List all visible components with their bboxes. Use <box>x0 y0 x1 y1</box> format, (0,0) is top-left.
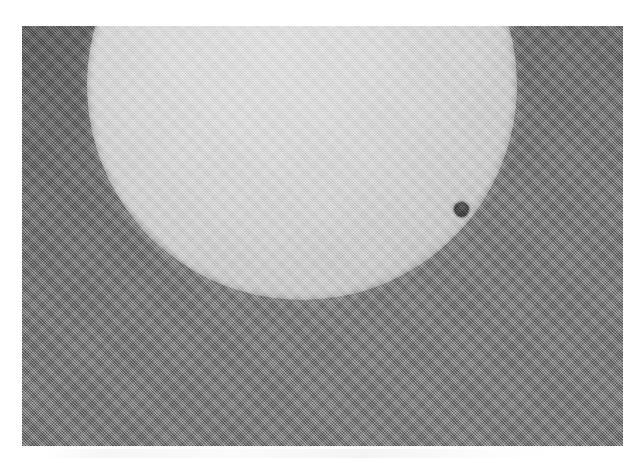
page-root: Grainy halftone-printed photograph of th… <box>0 0 637 463</box>
planet-silhouette <box>454 202 469 217</box>
photo-description: Grainy halftone-printed photograph of th… <box>0 0 1 1</box>
solar-transit-photograph <box>22 26 623 446</box>
scan-smudge-artifact <box>40 449 560 458</box>
photo-caption <box>0 0 1 1</box>
